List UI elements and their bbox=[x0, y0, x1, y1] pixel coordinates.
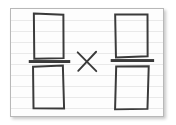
left-fraction-bar bbox=[29, 60, 70, 63]
right-numerator-box bbox=[115, 14, 147, 57]
right-fraction-bar bbox=[111, 59, 154, 62]
ruled-index-card bbox=[10, 8, 164, 117]
handwritten-fraction-drawing bbox=[11, 9, 163, 116]
drawing-description-text: Hand-drawn multiplication of two fractio… bbox=[0, 0, 1, 1]
drawing-expression-text: □/□ × □/□ bbox=[0, 0, 1, 1]
screenshot-canvas: □/□ × □/□ Hand-drawn multiplication of t… bbox=[0, 0, 176, 125]
left-denominator-box bbox=[33, 65, 64, 108]
right-denominator-box bbox=[115, 66, 149, 109]
left-numerator-box bbox=[34, 14, 64, 59]
